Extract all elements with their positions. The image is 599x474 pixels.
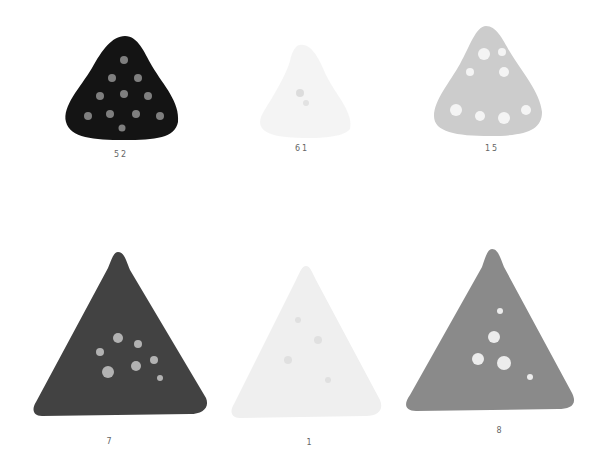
swatch-label-7: 7: [90, 437, 130, 446]
swatch-label-8: 8: [480, 426, 520, 435]
crochet-triangle-midgray-icon: [402, 245, 580, 415]
crochet-triangle-lightgray-icon: [430, 20, 550, 140]
swatch-61: [250, 35, 370, 145]
crochet-triangle-dark-icon: [60, 30, 185, 145]
swatch-label-52: 52: [101, 150, 141, 159]
swatch-15: [430, 20, 550, 140]
swatch-label-15: 15: [472, 144, 512, 153]
crochet-triangle-white-icon: [250, 35, 370, 145]
swatch-7: [30, 248, 210, 418]
swatch-8: [402, 245, 580, 415]
swatch-1: [228, 260, 388, 420]
crochet-triangle-darkgray-icon: [30, 248, 210, 418]
swatch-label-1: 1: [290, 438, 330, 447]
swatch-52: [60, 30, 185, 145]
swatch-label-61: 61: [282, 144, 322, 153]
crochet-triangle-white2-icon: [228, 260, 388, 420]
